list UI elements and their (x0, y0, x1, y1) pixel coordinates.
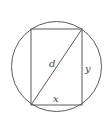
width-label: x (53, 93, 59, 104)
diagonal-label: d (49, 58, 55, 69)
diagram-canvas: d y x (0, 0, 112, 126)
height-label: y (84, 63, 91, 74)
inscribed-rectangle-diagram: d y x (0, 0, 112, 126)
